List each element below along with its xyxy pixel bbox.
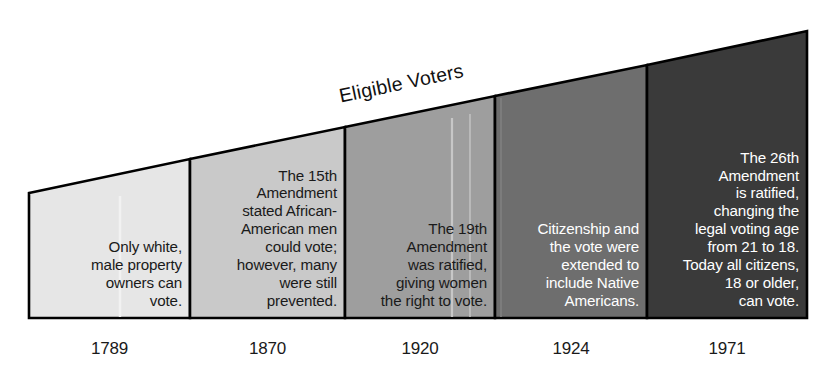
- bar-label-1870: The 15th Amendment stated African- Ameri…: [190, 162, 345, 317]
- bar-label-1920: The 19th Amendment was ratified, giving …: [345, 130, 495, 317]
- ramp-chart: Only white, male property owners can vot…: [0, 0, 828, 330]
- bar-label-1971: The 26th Amendment is ratified, changing…: [647, 68, 807, 317]
- year-label-1924: 1924: [495, 339, 647, 359]
- year-label-1971: 1971: [647, 339, 807, 359]
- year-label-1920: 1920: [345, 339, 495, 359]
- year-label-1789: 1789: [29, 339, 190, 359]
- bar-label-1924: Citizenship and the vote were extended t…: [495, 99, 647, 317]
- eligible-voters-infographic: Only white, male property owners can vot…: [0, 0, 828, 376]
- year-label-1870: 1870: [190, 339, 345, 359]
- year-axis: 1789 1870 1920 1924 1971: [0, 330, 828, 370]
- bar-label-1789: Only white, male property owners can vot…: [29, 196, 190, 317]
